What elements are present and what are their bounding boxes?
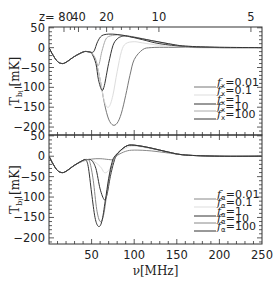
top-axis-label: 20 [99,10,114,24]
y-tick-label: 0 [38,41,45,55]
top-axis-label: z= 80 [39,10,73,24]
bottom-panel: 500−50−100−150−200Tbl [mK]50100150200250… [8,129,273,278]
y-tick-label: 0 [38,149,45,163]
y-tick-label: −50 [21,61,45,75]
x-tick-label: 100 [123,248,145,262]
x-tick-label: 200 [208,248,230,262]
y-axis-label: Tbl [mK] [8,57,24,106]
series-line [49,34,262,64]
x-axis-label: ν[MHz] [133,264,179,278]
series-line [49,35,262,66]
series-line [49,146,262,173]
top-axis-label: 10 [152,10,167,24]
y-axis-label: Tbl [mK] [8,165,24,214]
x-tick-label: 250 [251,248,273,262]
top-panel: 500−50−100−150−200Tbl [mK]z= 804020105fx… [8,10,262,135]
x-tick-label: 50 [84,248,99,262]
x-tick-label: 150 [166,248,188,262]
y-tick-label: 50 [30,129,45,143]
top-axis-label: 40 [71,10,86,24]
figure: 500−50−100−150−200Tbl [mK]z= 804020105fx… [0,0,280,281]
y-tick-label: −200 [13,231,45,245]
chart-svg: 500−50−100−150−200Tbl [mK]z= 804020105fx… [0,0,280,281]
top-axis-label: 5 [247,10,254,24]
y-tick-label: −50 [21,170,45,184]
